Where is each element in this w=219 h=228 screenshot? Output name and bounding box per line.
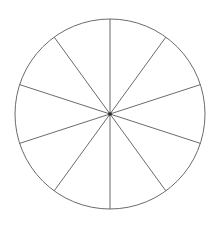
center-point-marker xyxy=(108,112,111,115)
fraction-circle-figure xyxy=(0,0,219,228)
pie-diagram-svg xyxy=(0,0,219,228)
